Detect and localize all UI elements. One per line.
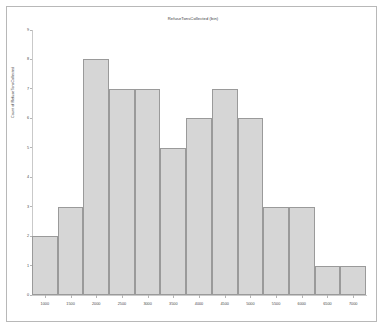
y-axis-label: Count of RefuseTonsCollected (11, 28, 15, 118)
x-tick-label: 2500 (118, 302, 126, 306)
x-tick-mark (250, 295, 251, 298)
x-tick-label: 1500 (66, 302, 74, 306)
x-tick-label: 5500 (272, 302, 280, 306)
x-tick-mark (225, 295, 226, 298)
x-tick-mark (71, 295, 72, 298)
histogram-bar (263, 207, 289, 295)
histogram-bar (135, 89, 161, 295)
x-tick-label: 1000 (41, 302, 49, 306)
x-tick-label: 7000 (349, 302, 357, 306)
histogram-bar (289, 207, 315, 295)
x-tick-mark (96, 295, 97, 298)
histogram-bar (315, 266, 341, 295)
x-tick-mark (327, 295, 328, 298)
histogram-bar (340, 266, 366, 295)
histogram-bar (58, 207, 84, 295)
x-tick-label: 5000 (246, 302, 254, 306)
x-tick-label: 3500 (169, 302, 177, 306)
x-tick-mark (276, 295, 277, 298)
histogram-bar (186, 118, 212, 295)
x-tick-label: 3000 (143, 302, 151, 306)
x-tick-label: 2000 (92, 302, 100, 306)
histogram-bar (109, 89, 135, 295)
x-tick-mark (45, 295, 46, 298)
histogram-bar (160, 148, 186, 295)
x-tick-mark (199, 295, 200, 298)
x-tick-label: 4000 (195, 302, 203, 306)
histogram-bars (32, 30, 366, 295)
x-tick-mark (122, 295, 123, 298)
histogram-bar (83, 59, 109, 295)
histogram-bar (32, 236, 58, 295)
x-tick-mark (148, 295, 149, 298)
x-axis-ticks: 1000150020002500300035004000450050005500… (32, 295, 367, 315)
x-tick-mark (173, 295, 174, 298)
x-tick-label: 4500 (220, 302, 228, 306)
histogram-bar (238, 118, 264, 295)
x-tick-mark (353, 295, 354, 298)
histogram-screenshot: RefuseTonsCollected (bin) Count of Refus… (0, 0, 386, 331)
histogram-bar (212, 89, 238, 295)
x-tick-label: 6000 (298, 302, 306, 306)
chart-title: RefuseTonsCollected (bin) (0, 16, 386, 22)
x-tick-label: 6500 (323, 302, 331, 306)
x-tick-mark (302, 295, 303, 298)
